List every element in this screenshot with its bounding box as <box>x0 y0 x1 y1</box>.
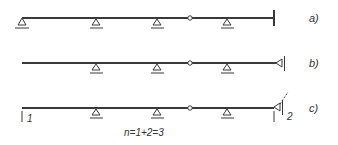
beam-b <box>22 56 285 73</box>
pin-support-icon <box>90 19 103 28</box>
pin-support-icon <box>151 109 164 118</box>
pin-support-icon <box>15 18 29 28</box>
left-marker-label: 1 <box>27 113 33 124</box>
hinge-icon <box>188 16 192 20</box>
horizontal-support-icon <box>276 56 285 71</box>
pin-support-icon <box>90 109 103 118</box>
pin-support-icon <box>90 64 103 73</box>
pin-support-icon <box>151 64 164 73</box>
beam-c-label: c) <box>309 102 319 114</box>
caption-formula: n=1+2=3 <box>124 127 164 138</box>
horizontal-support-icon <box>274 92 288 122</box>
hinge-icon <box>188 106 192 110</box>
beam-a <box>15 10 274 28</box>
pin-support-icon <box>151 19 164 28</box>
rotation-release-dashed-icon <box>280 92 288 104</box>
hinge-icon <box>188 61 192 65</box>
beam-c <box>22 92 288 122</box>
beam-diagram: a) b) <box>0 0 338 145</box>
pin-support-icon <box>221 64 234 73</box>
right-marker-label: 2 <box>286 111 293 122</box>
beam-a-label: a) <box>309 12 319 24</box>
pin-support-icon <box>221 19 234 28</box>
beam-b-label: b) <box>309 57 319 69</box>
pin-support-icon <box>221 109 234 118</box>
